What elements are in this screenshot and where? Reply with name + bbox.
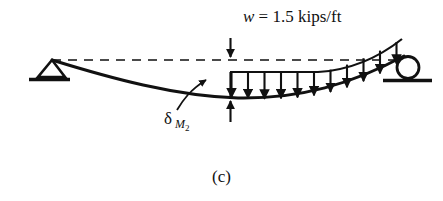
distributed-load-label: w = 1.5 kips/ft xyxy=(243,8,341,25)
load-symbol: w xyxy=(243,7,254,26)
figure-caption: (c) xyxy=(0,168,443,185)
figure-container: w = 1.5 kips/ft δ M2 (c) xyxy=(0,0,443,201)
load-unit: kips/ft xyxy=(294,7,342,26)
deflected-beam-curve xyxy=(52,56,404,98)
deflection-subscript-index: 2 xyxy=(185,123,190,133)
deflection-subscript: M2 xyxy=(172,117,190,131)
deflection-label: δ M2 xyxy=(164,110,190,133)
load-value: 1.5 xyxy=(272,7,293,26)
delta-symbol: δ xyxy=(164,109,172,128)
deflection-subscript-letter: M xyxy=(175,117,185,131)
distributed-load-rail xyxy=(230,39,402,72)
load-equals: = xyxy=(254,7,272,26)
